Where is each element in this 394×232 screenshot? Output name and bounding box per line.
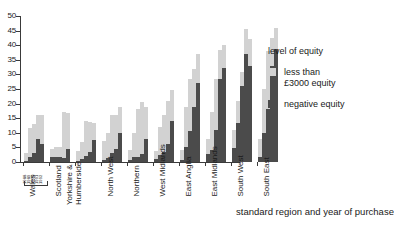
- x-group-tick: [205, 162, 206, 166]
- legend-label-line1: less than: [284, 67, 320, 77]
- bar-segment-negative-equity: [92, 140, 96, 162]
- stacked-bar: [248, 39, 252, 162]
- stacked-bar: [118, 107, 122, 162]
- y-tick-label: 20: [0, 100, 16, 108]
- bar-segment-negative-equity: [222, 68, 226, 162]
- region-label-north-west: North West: [107, 157, 116, 197]
- light-gray-swatch-icon: [268, 68, 276, 76]
- bar-segment-less-than-3000: [248, 39, 252, 65]
- bar-group: [50, 16, 70, 162]
- stacked-bar: [196, 54, 200, 162]
- y-tick-label: 50: [0, 12, 16, 20]
- y-tick-label: 45: [0, 27, 16, 35]
- wales-brace: [24, 181, 48, 186]
- bar-segment-less-than-3000: [170, 90, 174, 122]
- plot-area: [21, 16, 240, 162]
- x-group-tick: [231, 162, 232, 166]
- bar-group: [76, 16, 96, 162]
- bar-group: [24, 16, 44, 162]
- x-group-tick: [23, 162, 24, 166]
- x-group-tick: [153, 162, 154, 166]
- legend-title: level of equity: [268, 46, 372, 56]
- bar-segment-less-than-3000: [66, 113, 70, 149]
- bar-group: [180, 16, 200, 162]
- stacked-bar: [222, 45, 226, 162]
- x-group-tick: [101, 162, 102, 166]
- bar-segment-negative-equity: [144, 139, 148, 162]
- bar-group: [154, 16, 174, 162]
- y-tick-label: 5: [0, 143, 16, 151]
- stacked-bar: [144, 107, 148, 162]
- bar-segment-negative-equity: [40, 144, 44, 162]
- x-group-tick: [49, 162, 50, 166]
- legend-item-less-than-3000: less than £3000 equity: [268, 67, 372, 89]
- region-label-east-midlands: East Midlands: [211, 146, 220, 196]
- bar-segment-less-than-3000: [92, 123, 96, 141]
- region-label-yorkshire-humberside: Yorkshire &Humberside: [66, 145, 83, 205]
- bar-group: [102, 16, 122, 162]
- region-label-northern: Northern: [133, 165, 142, 196]
- y-tick-label: 0: [0, 158, 16, 166]
- legend-label-line2: £3000 equity: [284, 78, 336, 88]
- bar-segment-negative-equity: [196, 83, 200, 162]
- region-label-east-anglia: East Anglia: [185, 156, 194, 196]
- y-tick-label: 15: [0, 114, 16, 122]
- stacked-bar: [40, 115, 44, 162]
- bar-group: [128, 16, 148, 162]
- legend-label-less-than-3000: less than £3000 equity: [284, 67, 336, 89]
- bar-segment-negative-equity: [170, 121, 174, 162]
- region-label-scotland: Scotland: [55, 165, 64, 196]
- y-tick-label: 10: [0, 129, 16, 137]
- x-group-tick: [127, 162, 128, 166]
- stacked-bar: [170, 90, 174, 162]
- y-tick-label: 35: [0, 56, 16, 64]
- bar-group: [206, 16, 226, 162]
- y-tick-mark: [16, 162, 21, 163]
- region-label-south-west: South West: [237, 155, 246, 196]
- y-tick-label: 40: [0, 41, 16, 49]
- bar-segment-less-than-3000: [196, 54, 200, 83]
- bar-segment-less-than-3000: [222, 45, 226, 67]
- bar-group: [232, 16, 252, 162]
- x-group-tick: [179, 162, 180, 166]
- legend-item-negative-equity: negative equity: [268, 99, 372, 110]
- bar-segment-less-than-3000: [144, 107, 148, 139]
- y-tick-label: 30: [0, 70, 16, 78]
- region-label-south-east: South East: [263, 157, 272, 196]
- bar-segment-negative-equity: [248, 66, 252, 162]
- stacked-bar: [92, 123, 96, 162]
- legend: level of equity less than £3000 equity n…: [268, 46, 372, 120]
- x-axis-line: [21, 162, 240, 163]
- bar-segment-less-than-3000: [118, 107, 122, 134]
- legend-label-negative-equity: negative equity: [284, 99, 345, 110]
- dark-gray-swatch-icon: [268, 100, 276, 108]
- x-axis-title: standard region and year of purchase: [236, 206, 394, 217]
- bar-segment-less-than-3000: [40, 115, 44, 144]
- region-label-west-midlands: West Midlands: [159, 144, 168, 196]
- x-group-tick: [257, 162, 258, 166]
- bar-segment-negative-equity: [118, 133, 122, 162]
- y-tick-label: 25: [0, 85, 16, 93]
